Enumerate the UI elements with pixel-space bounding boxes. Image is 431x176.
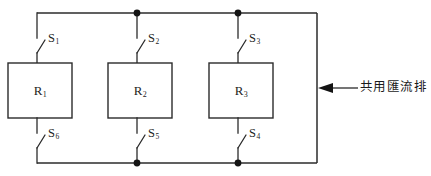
switch-s3-symbol: S — [249, 31, 256, 45]
resistor-r3-subscript: 3 — [244, 90, 248, 99]
switch-label-s4: S4 — [249, 127, 260, 140]
junction-dot-top-branch-3 — [235, 10, 242, 17]
switch-s1-subscript: 1 — [55, 37, 59, 46]
switch-s5-symbol: S — [148, 126, 155, 140]
switch-label-s6: S6 — [48, 127, 59, 140]
resistor-r2-symbol: R — [134, 83, 143, 98]
switch-label-s1: S1 — [48, 32, 59, 45]
switch-s2-subscript: 2 — [155, 37, 159, 46]
switch-s2-symbol: S — [148, 31, 155, 45]
resistor-r3-symbol: R — [235, 83, 244, 98]
common-busbar-annotation-label: 共用匯流排 — [360, 81, 427, 94]
switch-label-s3: S3 — [249, 32, 260, 45]
switch-s4-subscript: 4 — [256, 132, 260, 141]
switch-s1-symbol: S — [48, 31, 55, 45]
switch-s1-blade — [37, 40, 45, 53]
switch-s6-subscript: 6 — [55, 132, 59, 141]
resistor-label-r3: R3 — [209, 84, 273, 97]
switch-s3-subscript: 3 — [256, 37, 260, 46]
resistor-r1-subscript: 1 — [43, 90, 47, 99]
junction-dot-top-branch-2 — [134, 10, 141, 17]
resistor-r2-subscript: 2 — [143, 90, 147, 99]
switch-s6-blade — [37, 135, 45, 148]
resistor-label-r1: R1 — [8, 84, 72, 97]
switch-s4-symbol: S — [249, 126, 256, 140]
switch-s5-subscript: 5 — [155, 132, 159, 141]
switch-s3-blade — [238, 40, 246, 53]
switch-s6-symbol: S — [48, 126, 55, 140]
resistor-label-r2: R2 — [108, 84, 172, 97]
junction-dot-bottom-branch-2 — [134, 160, 141, 167]
switch-label-s2: S2 — [148, 32, 159, 45]
junction-dot-bottom-branch-3 — [235, 160, 242, 167]
switch-s2-blade — [137, 40, 145, 53]
annotation-arrow-head-icon — [318, 83, 333, 93]
switch-s5-blade — [137, 135, 145, 148]
switch-label-s5: S5 — [148, 127, 159, 140]
resistor-r1-symbol: R — [34, 83, 43, 98]
switch-s4-blade — [238, 135, 246, 148]
circuit-diagram-canvas: S1 S2 S3 S6 S5 S4 R1 R2 R3 共用匯流排 — [0, 0, 431, 176]
